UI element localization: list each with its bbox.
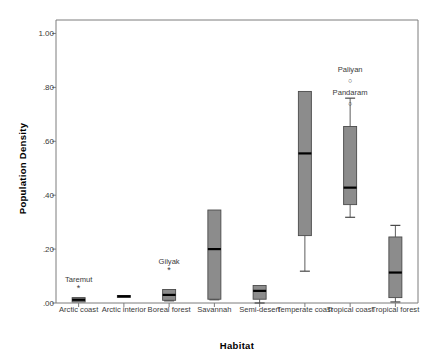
outlier-label: Pandaram bbox=[333, 88, 368, 97]
box bbox=[298, 91, 311, 235]
x-axis-tick-label: Tropical forest bbox=[364, 306, 426, 315]
y-axis-tick-label: 1.00 bbox=[24, 29, 54, 38]
outlier-marker: ○ bbox=[348, 99, 352, 108]
box-plot-chart: Population Density Habitat .00.20.40.60.… bbox=[0, 0, 439, 363]
box bbox=[389, 237, 402, 298]
outlier-marker: * bbox=[77, 284, 81, 293]
box bbox=[208, 210, 221, 299]
y-axis-tick-label: .40 bbox=[24, 191, 54, 200]
box bbox=[253, 285, 266, 299]
outlier-marker: * bbox=[167, 266, 171, 275]
y-axis-tick-label: .60 bbox=[24, 137, 54, 146]
y-axis-tick-label: .80 bbox=[24, 83, 54, 92]
outlier-marker: ○ bbox=[348, 76, 352, 85]
box bbox=[344, 126, 357, 204]
outlier-label: Paliyan bbox=[338, 65, 363, 74]
y-axis-tick-label: .20 bbox=[24, 245, 54, 254]
